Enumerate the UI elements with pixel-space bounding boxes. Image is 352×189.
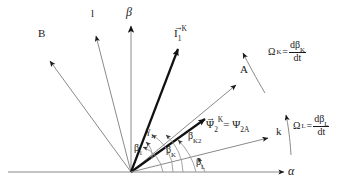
vector-Psi2K-label: → Ψ 2K= Ψ2A: [206, 117, 249, 132]
angle-beta1-subscript: 1: [139, 149, 142, 156]
vector-angle-diagram: α β B l → I 1K A → Ψ 2K= Ψ2A k γ1 β1 βK …: [0, 0, 352, 189]
vector-I1K-subscript: 1: [178, 34, 182, 43]
alpha-axis-label: α: [288, 165, 294, 177]
beta-axis-label: β: [126, 6, 132, 18]
omega-L-arc: [286, 115, 291, 155]
vector-Psi2A-subscript: 2A: [240, 125, 249, 134]
vector-l-line: [96, 36, 131, 172]
omega-L-symbol: Ω: [293, 121, 300, 131]
omega-K-numerator-subscript: K: [300, 46, 305, 53]
vector-I1K-label: → I 1K: [174, 26, 187, 41]
angle-betaK2-subscript: K2: [193, 137, 201, 144]
vector-B-line: [50, 61, 131, 172]
vector-l-label: l: [91, 8, 94, 19]
angle-arc-betaK2-outer: [178, 140, 196, 172]
omega-K-denominator: dt: [289, 53, 306, 64]
vector-Psi2K-equals: = Ψ: [223, 118, 240, 130]
angle-betaL-subscript: L: [201, 163, 205, 170]
angle-betaL-label: βL: [196, 157, 205, 170]
vector-B-label: B: [38, 28, 45, 39]
vector-A-label: A: [240, 64, 248, 75]
vector-k-label: k: [276, 126, 282, 137]
angle-beta1-label: β1: [134, 143, 143, 156]
omega-K-fraction: dβK dt: [289, 40, 306, 64]
omega-K-numerator-text: dβ: [290, 39, 300, 50]
angle-gamma1-label: γ1: [146, 126, 154, 139]
vector-Psi2K-superscript: K: [218, 115, 223, 124]
omega-L-fraction: dβL dt: [313, 114, 329, 138]
omega-L-denominator: dt: [313, 127, 329, 138]
omega-K-subscript: K: [276, 49, 281, 56]
angle-betaK-label: βK: [166, 145, 176, 158]
omega-L-expression: ΩL = dβL dt: [293, 114, 329, 138]
vector-arrow-overline-Psi2K: →: [206, 114, 215, 123]
omega-K-equals: =: [282, 47, 288, 57]
angle-betaK2-label: βK2: [188, 131, 201, 144]
omega-K-expression: ΩK = dβK dt: [268, 40, 306, 64]
vector-Psi2K-subscript: 2: [214, 125, 218, 134]
angle-gamma1-subscript: 1: [150, 132, 153, 139]
omega-L-equals: =: [307, 121, 313, 131]
omega-L-subscript: L: [301, 123, 305, 130]
vector-I1K-superscript: K: [181, 24, 186, 33]
omega-L-numerator-text: dβ: [314, 113, 324, 124]
omega-K-symbol: Ω: [268, 47, 275, 57]
omega-L-numerator-subscript: L: [324, 120, 328, 127]
angle-betaK-subscript: K: [171, 151, 176, 158]
vector-arrow-glyph-Psi2K: → Ψ: [206, 119, 214, 130]
